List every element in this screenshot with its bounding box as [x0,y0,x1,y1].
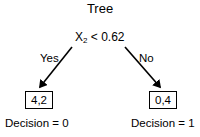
leaf-decision-left: Decision = 0 [5,117,69,129]
leaf-node-right: 0,4 [149,91,177,109]
edge-label-yes: Yes [40,52,59,64]
leaf-decision-right: Decision = 1 [131,117,195,129]
edge-label-no: No [139,52,154,64]
leaf-node-left: 4,2 [25,91,53,109]
